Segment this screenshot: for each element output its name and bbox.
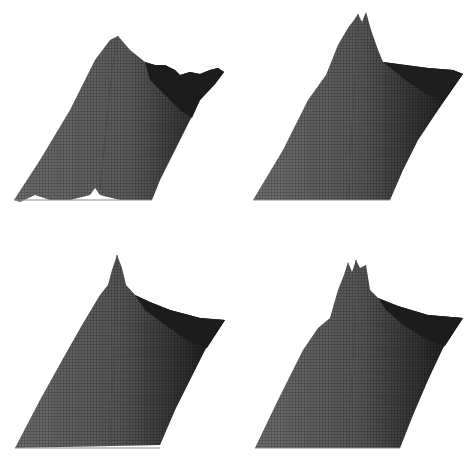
surface-plot-top-left [0, 0, 238, 230]
surface-plot-top-right [238, 0, 476, 230]
surface-plot-bottom-right [238, 230, 476, 460]
surface-plot-bottom-left [0, 230, 238, 460]
figure-grid [0, 0, 476, 460]
surface-mesh-bottom-left [0, 230, 238, 460]
surface-mesh-bottom-right [238, 230, 476, 460]
surface-mesh-top-left [0, 0, 238, 230]
surface-mesh-top-right [238, 0, 476, 230]
